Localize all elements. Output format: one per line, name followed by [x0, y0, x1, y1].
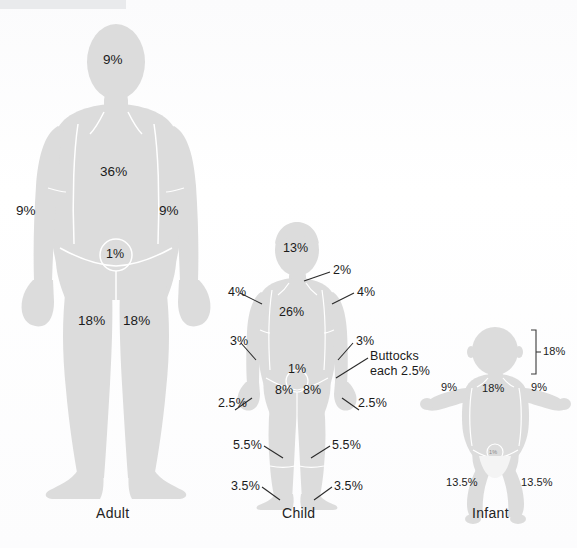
child-left-forearm-percent: 3% — [230, 334, 248, 348]
child-head-percent: 13% — [283, 241, 308, 255]
infant-caption: Infant — [472, 505, 509, 521]
child-buttocks-label-group: Buttocks each 2.5% — [370, 349, 430, 380]
infant-genitalia-percent: 1% — [489, 449, 497, 455]
child-buttocks-percent: each 2.5% — [370, 364, 430, 379]
infant-left-leg-percent: 13.5% — [446, 476, 478, 489]
child-left-foot-percent: 3.5% — [231, 479, 260, 493]
child-genitalia-percent: 1% — [288, 362, 306, 376]
adult-left-arm-percent: 9% — [16, 203, 36, 219]
infant-trunk-percent: 18% — [482, 382, 504, 395]
adult-caption: Adult — [96, 505, 129, 521]
infant-left-arm-percent: 9% — [441, 381, 457, 394]
child-left-lower-leg-percent: 5.5% — [233, 438, 262, 452]
adult-genitalia-percent: 1% — [106, 247, 124, 261]
child-right-foot-percent: 3.5% — [334, 479, 363, 493]
child-right-upper-arm-percent: 4% — [357, 285, 375, 299]
child-left-hand-percent: 2.5% — [218, 396, 247, 410]
child-caption: Child — [282, 505, 315, 521]
adult-head-percent: 9% — [103, 52, 123, 68]
adult-right-arm-percent: 9% — [159, 203, 179, 219]
infant-right-leg-percent: 13.5% — [521, 476, 553, 489]
adult-figure — [22, 24, 211, 499]
infant-head-percent: 18% — [543, 345, 565, 358]
child-neck-percent: 2% — [333, 263, 351, 277]
child-right-forearm-percent: 3% — [356, 334, 374, 348]
figures-artwork: .body { fill: #dcdcdc; } .seam { fill: n… — [0, 0, 577, 548]
child-left-thigh-percent: 8% — [275, 383, 293, 397]
child-right-thigh-percent: 8% — [303, 383, 321, 397]
bsa-diagram-page: .body { fill: #dcdcdc; } .seam { fill: n… — [0, 0, 577, 548]
child-left-upper-arm-percent: 4% — [228, 285, 246, 299]
child-buttocks-label: Buttocks — [370, 349, 430, 364]
infant-right-arm-percent: 9% — [531, 381, 547, 394]
adult-trunk-percent: 36% — [100, 164, 127, 180]
child-right-lower-leg-percent: 5.5% — [332, 438, 361, 452]
adult-left-leg-percent: 18% — [78, 313, 105, 329]
child-right-hand-percent: 2.5% — [358, 396, 387, 410]
child-trunk-percent: 26% — [279, 305, 304, 319]
adult-right-leg-percent: 18% — [123, 313, 150, 329]
